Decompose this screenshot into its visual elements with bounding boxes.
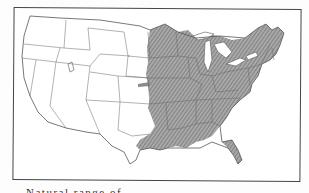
- figure-caption: Natural range of: [26, 186, 122, 193]
- unshaded-spot: [232, 109, 244, 115]
- great-salt-lake: [68, 62, 74, 72]
- us-range-map: [0, 0, 309, 193]
